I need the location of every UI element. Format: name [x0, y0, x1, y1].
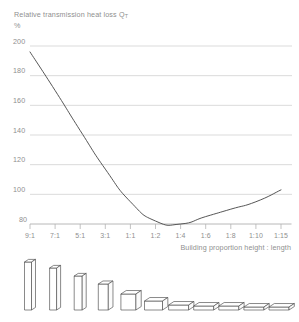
y-axis-tick-label: 200: [13, 38, 25, 45]
x-axis-tick-label: 7:1: [50, 232, 60, 239]
building-block: [74, 273, 86, 310]
data-curve: [30, 52, 281, 225]
building-block: [269, 304, 294, 310]
y-axis-tick-label: 180: [13, 67, 25, 74]
x-axis-tick-label: 1:10: [249, 232, 263, 239]
y-axis-tick-label: 120: [13, 156, 25, 163]
gridlines: [30, 46, 292, 224]
plot-area: [0, 0, 299, 322]
building-block: [219, 303, 244, 310]
block-side-face: [108, 281, 113, 310]
block-side-face: [136, 291, 141, 310]
building-block: [244, 304, 269, 310]
block-front-face: [244, 307, 264, 310]
block-front-face: [98, 284, 108, 310]
block-front-face: [25, 262, 32, 310]
block-front-face: [74, 276, 82, 310]
x-axis-tick-label: 9:1: [25, 232, 35, 239]
block-front-face: [169, 305, 189, 310]
block-side-face: [82, 273, 86, 310]
building-block: [25, 259, 36, 310]
block-side-face: [57, 265, 61, 310]
building-block: [169, 302, 194, 310]
block-front-face: [145, 301, 163, 310]
building-block-diagram: [25, 259, 295, 310]
y-axis-tick-label: 140: [13, 127, 25, 134]
chart-figure: Relative transmission heat loss QT % 200…: [0, 0, 299, 322]
block-front-face: [50, 268, 57, 310]
x-axis-caption: Building proportion height : length: [180, 243, 291, 252]
x-axis-ticks: [30, 224, 281, 229]
x-axis-tick-label: 1:2: [150, 232, 160, 239]
x-axis-tick-label: 1:15: [274, 232, 288, 239]
building-block: [145, 298, 168, 310]
building-block: [194, 303, 219, 310]
y-axis-tick-label: 160: [13, 97, 25, 104]
building-block: [50, 265, 61, 310]
block-front-face: [269, 307, 289, 310]
x-axis-tick-label: 1:6: [201, 232, 211, 239]
x-axis-tick-label: 1:8: [226, 232, 236, 239]
x-axis-tick-label: 3:1: [100, 232, 110, 239]
block-front-face: [194, 306, 214, 310]
block-front-face: [219, 306, 239, 310]
x-axis-tick-label: 1:1: [125, 232, 135, 239]
y-axis-tick-label: 100: [13, 186, 25, 193]
block-front-face: [121, 294, 136, 310]
building-block: [121, 291, 141, 310]
chart-svg: [0, 0, 299, 322]
y-axis-tick-label: 80: [19, 216, 27, 223]
block-side-face: [32, 259, 36, 310]
building-block: [98, 281, 113, 310]
x-axis-tick-label: 1:4: [176, 232, 186, 239]
x-axis-tick-label: 5:1: [75, 232, 85, 239]
